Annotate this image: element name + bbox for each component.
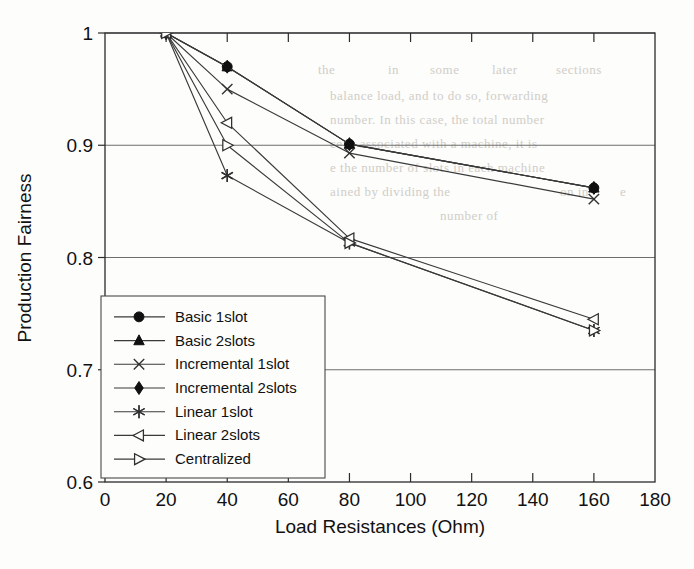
series-0 bbox=[161, 28, 599, 193]
x-tick-label: 0 bbox=[100, 489, 111, 510]
marker-x-cross bbox=[222, 84, 232, 94]
series-line bbox=[166, 33, 594, 330]
marker-asterisk bbox=[222, 169, 233, 182]
legend-item-label: Linear 2slots bbox=[175, 426, 260, 443]
series-1 bbox=[161, 27, 599, 192]
chart-figure: the in some later sections balance load,… bbox=[0, 0, 694, 569]
series-layer bbox=[160, 27, 600, 337]
legend-item-label: Incremental 2slots bbox=[175, 379, 297, 396]
y-tick-label: 1 bbox=[82, 23, 93, 44]
marker-triangle-left bbox=[221, 117, 231, 128]
x-axis-title: Load Resistances (Ohm) bbox=[275, 516, 485, 537]
x-tick-label: 180 bbox=[639, 489, 671, 510]
x-tick-label: 120 bbox=[456, 489, 488, 510]
series-line bbox=[166, 33, 594, 188]
legend: Basic 1slotBasic 2slotsIncremental 1slot… bbox=[101, 296, 325, 478]
y-tick-labels: 0.60.70.80.91 bbox=[67, 23, 93, 493]
legend-item-label: Linear 1slot bbox=[175, 403, 253, 420]
marker-x-cross bbox=[589, 194, 599, 204]
y-tick-label: 0.9 bbox=[67, 135, 93, 156]
series-line bbox=[166, 33, 594, 188]
x-tick-label: 80 bbox=[339, 489, 360, 510]
x-tick-label: 140 bbox=[517, 489, 549, 510]
legend-item-label: Basic 1slot bbox=[175, 308, 248, 325]
plot-area: 020406080100120140160180 0.60.70.80.91 L… bbox=[0, 0, 694, 569]
y-axis-title: Production Fairness bbox=[14, 174, 35, 343]
legend-item-label: Basic 2slots bbox=[175, 332, 255, 349]
x-tick-label: 60 bbox=[278, 489, 299, 510]
marker-triangle-left bbox=[588, 314, 598, 325]
legend-item-label: Centralized bbox=[175, 450, 251, 467]
y-tick-label: 0.6 bbox=[67, 472, 93, 493]
x-tick-label: 40 bbox=[217, 489, 238, 510]
legend-item-label: Incremental 1slot bbox=[175, 355, 290, 372]
marker-circle bbox=[134, 312, 144, 322]
x-tick-label: 100 bbox=[395, 489, 427, 510]
series-line bbox=[166, 33, 594, 330]
marker-triangle-right bbox=[589, 325, 599, 336]
x-tick-label: 160 bbox=[578, 489, 610, 510]
x-tick-label: 20 bbox=[156, 489, 177, 510]
x-tick-labels: 020406080100120140160180 bbox=[100, 489, 671, 510]
series-4 bbox=[160, 27, 599, 337]
y-tick-label: 0.8 bbox=[67, 248, 93, 269]
y-tick-label: 0.7 bbox=[67, 360, 93, 381]
series-line bbox=[166, 33, 594, 188]
